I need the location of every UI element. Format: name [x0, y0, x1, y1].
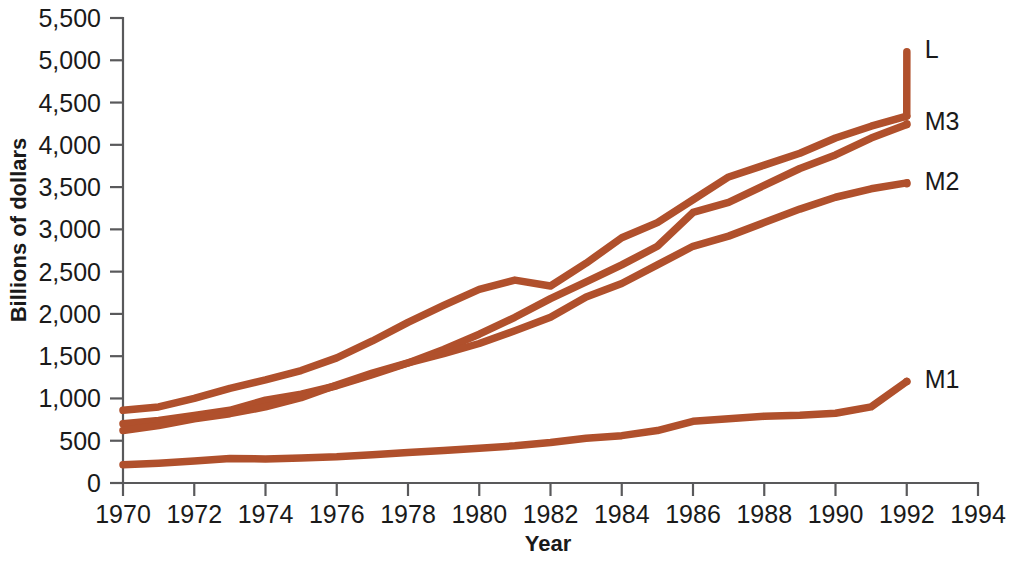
x-tick-label: 1970: [95, 500, 151, 528]
series-label-m2: M2: [925, 167, 960, 195]
data-series-group: [123, 116, 907, 465]
x-axis: 1970197219741976197819801982198419861988…: [95, 483, 1006, 528]
series-line-m3: [123, 125, 907, 424]
y-tick-label: 1,500: [38, 342, 101, 370]
y-tick-label: 2,500: [38, 258, 101, 286]
x-tick-label: 1988: [736, 500, 792, 528]
x-tick-label: 1992: [879, 500, 935, 528]
y-tick-label: 0: [87, 469, 101, 497]
y-tick-label: 4,000: [38, 131, 101, 159]
line-chart: 05001,0001,5002,0002,5003,0003,5004,0004…: [0, 0, 1022, 561]
y-axis-title: Billions of dollars: [6, 138, 31, 323]
x-tick-label: 1978: [380, 500, 436, 528]
y-axis: 05001,0001,5002,0002,5003,0003,5004,0004…: [38, 4, 123, 497]
y-tick-label: 5,000: [38, 46, 101, 74]
x-tick-label: 1986: [665, 500, 721, 528]
x-tick-label: 1990: [808, 500, 864, 528]
y-tick-label: 3,500: [38, 173, 101, 201]
x-tick-label: 1982: [523, 500, 579, 528]
x-tick-label: 1994: [950, 500, 1006, 528]
y-tick-label: 1,000: [38, 384, 101, 412]
series-line-m1: [123, 382, 907, 465]
x-tick-label: 1976: [309, 500, 365, 528]
y-tick-label: 4,500: [38, 89, 101, 117]
y-tick-label: 5,500: [38, 4, 101, 32]
series-labels: LM3M2M1: [907, 35, 960, 393]
x-tick-label: 1974: [238, 500, 294, 528]
chart-figure: 05001,0001,5002,0002,5003,0003,5004,0004…: [0, 0, 1022, 561]
x-axis-title: Year: [525, 531, 572, 556]
series-line-l: [123, 116, 907, 410]
x-tick-label: 1984: [594, 500, 650, 528]
y-tick-label: 2,000: [38, 300, 101, 328]
series-line-m2: [123, 183, 907, 431]
y-tick-label: 3,000: [38, 215, 101, 243]
series-label-m3: M3: [925, 107, 960, 135]
series-label-l: L: [925, 35, 939, 63]
series-label-m1: M1: [925, 365, 960, 393]
x-tick-label: 1980: [451, 500, 507, 528]
y-tick-label: 500: [59, 427, 101, 455]
x-tick-label: 1972: [166, 500, 222, 528]
